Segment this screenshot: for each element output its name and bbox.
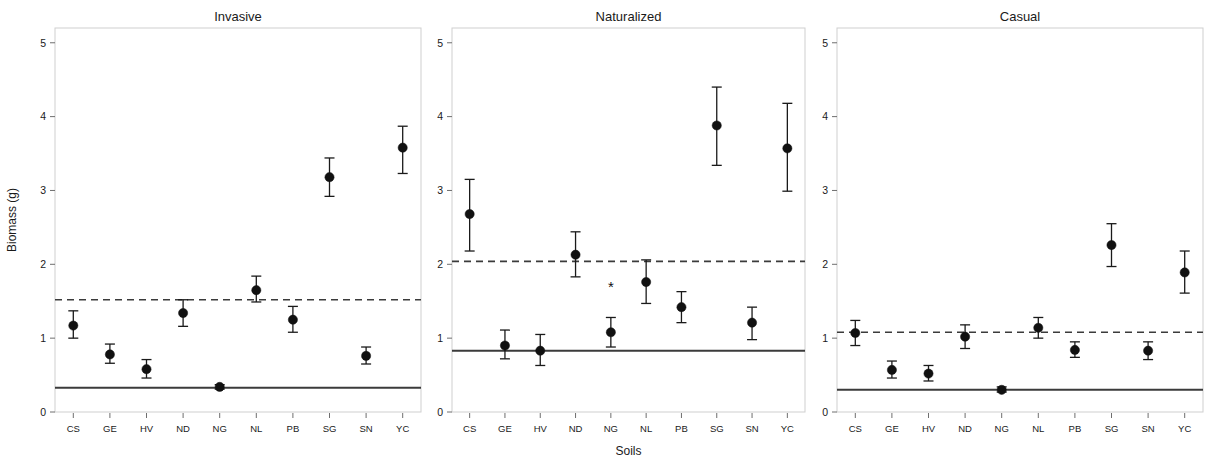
data-point-ng bbox=[215, 382, 224, 391]
x-tick-label-pb: PB bbox=[287, 423, 300, 434]
x-tick-label-ng: NG bbox=[995, 423, 1009, 434]
y-tick-label: 1 bbox=[437, 332, 443, 344]
y-tick-label: 4 bbox=[40, 110, 46, 122]
data-point-sg bbox=[712, 121, 721, 130]
x-tick-label-cs: CS bbox=[463, 423, 476, 434]
y-tick-label: 0 bbox=[437, 406, 443, 418]
x-axis-title: Soils bbox=[615, 444, 641, 458]
y-tick-label: 0 bbox=[822, 406, 828, 418]
data-point-hv bbox=[924, 369, 933, 378]
data-point-yc bbox=[1180, 268, 1189, 277]
x-tick-label-sn: SN bbox=[1141, 423, 1154, 434]
x-tick-label-yc: YC bbox=[1178, 423, 1191, 434]
data-point-nd bbox=[571, 250, 580, 259]
figure-container: Invasive012345CSGEHVNDNGNLPBSGSNYCNatura… bbox=[0, 0, 1226, 460]
y-tick-label: 3 bbox=[437, 184, 443, 196]
x-tick-label-ge: GE bbox=[103, 423, 117, 434]
x-tick-label-ng: NG bbox=[604, 423, 618, 434]
data-point-nd bbox=[179, 308, 188, 317]
y-tick-label: 4 bbox=[437, 110, 443, 122]
y-tick-label: 5 bbox=[40, 37, 46, 49]
y-tick-label: 4 bbox=[822, 110, 828, 122]
data-point-sn bbox=[1144, 346, 1153, 355]
x-tick-label-ge: GE bbox=[498, 423, 512, 434]
x-tick-label-sg: SG bbox=[323, 423, 337, 434]
x-tick-label-hv: HV bbox=[140, 423, 154, 434]
data-point-hv bbox=[142, 365, 151, 374]
significance-marker-ng: * bbox=[608, 278, 614, 295]
y-tick-label: 2 bbox=[437, 258, 443, 270]
x-tick-label-nd: ND bbox=[569, 423, 583, 434]
x-tick-label-pb: PB bbox=[1069, 423, 1082, 434]
x-tick-label-nd: ND bbox=[176, 423, 190, 434]
x-tick-label-nl: NL bbox=[1032, 423, 1044, 434]
data-point-nl bbox=[252, 286, 261, 295]
x-tick-label-nl: NL bbox=[250, 423, 262, 434]
data-point-cs bbox=[465, 209, 474, 218]
x-tick-label-cs: CS bbox=[67, 423, 80, 434]
data-point-cs bbox=[851, 328, 860, 337]
data-point-ge bbox=[500, 341, 509, 350]
y-tick-label: 2 bbox=[822, 258, 828, 270]
y-tick-label: 5 bbox=[437, 37, 443, 49]
data-point-hv bbox=[536, 346, 545, 355]
data-point-pb bbox=[677, 303, 686, 312]
data-point-nd bbox=[961, 332, 970, 341]
panel-title: Invasive bbox=[214, 9, 262, 24]
data-point-sn bbox=[747, 318, 756, 327]
x-tick-label-sg: SG bbox=[710, 423, 724, 434]
x-tick-label-sn: SN bbox=[745, 423, 758, 434]
x-tick-label-ng: NG bbox=[213, 423, 227, 434]
x-tick-label-yc: YC bbox=[396, 423, 409, 434]
x-tick-label-hv: HV bbox=[534, 423, 548, 434]
data-point-sn bbox=[362, 351, 371, 360]
data-point-ge bbox=[887, 365, 896, 374]
y-tick-label: 1 bbox=[822, 332, 828, 344]
data-point-yc bbox=[398, 143, 407, 152]
data-point-nl bbox=[1034, 323, 1043, 332]
x-tick-label-pb: PB bbox=[675, 423, 688, 434]
panel-title: Naturalized bbox=[596, 9, 662, 24]
multi-panel-errorbar-figure: Invasive012345CSGEHVNDNGNLPBSGSNYCNatura… bbox=[0, 0, 1226, 460]
data-point-sg bbox=[325, 173, 334, 182]
x-tick-label-cs: CS bbox=[849, 423, 862, 434]
data-point-nl bbox=[642, 277, 651, 286]
x-tick-label-nd: ND bbox=[958, 423, 972, 434]
data-point-ng bbox=[606, 328, 615, 337]
data-point-pb bbox=[1070, 345, 1079, 354]
y-tick-label: 3 bbox=[822, 184, 828, 196]
x-tick-label-nl: NL bbox=[640, 423, 652, 434]
x-tick-label-sg: SG bbox=[1105, 423, 1119, 434]
data-point-ng bbox=[997, 385, 1006, 394]
data-point-cs bbox=[69, 321, 78, 330]
y-tick-label: 5 bbox=[822, 37, 828, 49]
y-tick-label: 1 bbox=[40, 332, 46, 344]
panel-title: Casual bbox=[1000, 9, 1041, 24]
data-point-yc bbox=[783, 144, 792, 153]
panel-casual: Casual012345CSGEHVNDNGNLPBSGSNYC bbox=[822, 9, 1203, 434]
y-tick-label: 0 bbox=[40, 406, 46, 418]
y-axis-title: Biomass (g) bbox=[5, 188, 19, 252]
data-point-ge bbox=[105, 350, 114, 359]
x-tick-label-sn: SN bbox=[359, 423, 372, 434]
data-point-pb bbox=[288, 315, 297, 324]
y-tick-label: 3 bbox=[40, 184, 46, 196]
x-tick-label-hv: HV bbox=[922, 423, 936, 434]
panel-invasive: Invasive012345CSGEHVNDNGNLPBSGSNYC bbox=[40, 9, 421, 434]
data-point-sg bbox=[1107, 241, 1116, 250]
x-tick-label-ge: GE bbox=[885, 423, 899, 434]
panel-naturalized: Naturalized012345CSGEHVNDNGNLPBSGSNYC* bbox=[437, 9, 805, 434]
y-tick-label: 2 bbox=[40, 258, 46, 270]
x-tick-label-yc: YC bbox=[781, 423, 794, 434]
